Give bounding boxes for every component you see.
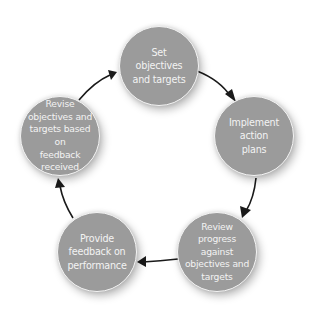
node-review-progress: Review progress against objectives and t… (177, 212, 257, 292)
arrow-review-to-feedback (143, 259, 178, 262)
node-label: Provide feedback on performance (65, 232, 128, 273)
cycle-diagram: Set objectives and targets Implement act… (0, 0, 318, 320)
arrowhead-icon (240, 206, 251, 218)
arrow-set-to-implement (197, 71, 231, 97)
node-revise-objectives: Revise objectives and targets based on f… (20, 96, 100, 176)
node-label: Set objectives and targets (130, 46, 187, 87)
arrow-revise-to-set (79, 75, 110, 100)
arrowhead-icon (137, 256, 146, 267)
arrow-implement-to-review (246, 178, 256, 211)
node-label: Revise objectives and targets based on f… (21, 98, 99, 174)
arrowhead-icon (55, 178, 65, 188)
node-provide-feedback: Provide feedback on performance (57, 212, 137, 292)
node-label: Review progress against objectives and t… (183, 221, 251, 284)
arrow-feedback-to-revise (60, 186, 73, 218)
node-implement-action-plans: Implement action plans (214, 96, 294, 176)
node-set-objectives: Set objectives and targets (119, 26, 199, 106)
node-label: Implement action plans (227, 116, 281, 157)
